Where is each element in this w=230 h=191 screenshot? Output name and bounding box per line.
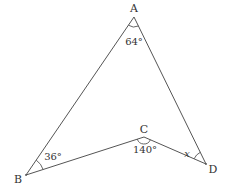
vertex-label-b: B [14,173,22,186]
angle-arc-a [128,25,138,27]
angle-arcs [36,25,200,169]
segment-da [134,17,206,164]
angle-label-d: x [184,148,190,159]
vertex-dots [25,163,207,176]
segment-ab [26,17,134,175]
angle-arc-d [194,152,200,159]
geometry-diagram: A B C D 64° 36° 140° x [0,0,230,191]
angle-label-c: 140° [133,144,157,155]
angle-label-b: 36° [44,151,62,162]
vertex-label-c: C [140,123,148,136]
vertex-dot-d [205,163,207,165]
vertex-label-a: A [129,2,139,15]
angle-arc-b [36,160,43,169]
vertex-label-d: D [209,163,218,176]
vertex-dot-b [25,174,27,176]
angle-label-a: 64° [125,36,143,47]
